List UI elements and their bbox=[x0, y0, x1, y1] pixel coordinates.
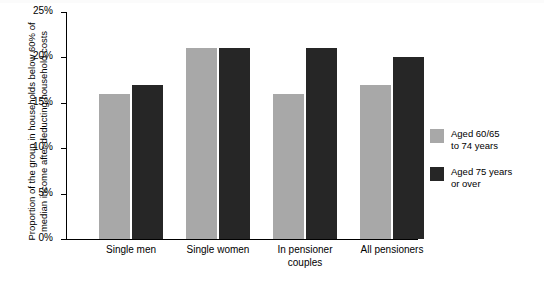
y-tick-label-15: 15% bbox=[13, 96, 53, 107]
y-tick-25: 25% bbox=[61, 12, 66, 13]
legend: Aged 60/65 to 74 years Aged 75 years or … bbox=[430, 128, 542, 204]
bar-single-women-60-74 bbox=[186, 48, 217, 239]
bar-single-men-60-74 bbox=[99, 94, 130, 239]
legend-item-75-plus: Aged 75 years or over bbox=[430, 166, 542, 190]
y-axis-line bbox=[66, 12, 67, 240]
x-label-in-pensioner-couples-line2: couples bbox=[245, 257, 365, 268]
legend-swatch-75-plus bbox=[430, 167, 444, 181]
legend-item-60-74: Aged 60/65 to 74 years bbox=[430, 128, 542, 152]
legend-label-75-plus-line1: Aged 75 years bbox=[451, 166, 542, 178]
bars-all-pensioners bbox=[360, 12, 434, 239]
bars-single-women bbox=[186, 12, 260, 239]
y-tick-0: 0% bbox=[61, 239, 66, 240]
y-tick-label-20: 20% bbox=[13, 50, 53, 61]
bar-chart: Proportion of the group in households be… bbox=[0, 0, 544, 285]
y-tick-label-10: 10% bbox=[13, 141, 53, 152]
x-axis-line bbox=[66, 239, 418, 240]
bar-group-all-pensioners: All pensioners bbox=[360, 12, 434, 239]
bar-in-pensioner-couples-75-plus bbox=[306, 48, 337, 239]
legend-label-60-74-line1: Aged 60/65 bbox=[451, 128, 542, 140]
legend-swatch-60-74 bbox=[430, 129, 444, 143]
y-tick-15: 15% bbox=[61, 103, 66, 104]
bar-single-men-75-plus bbox=[132, 85, 163, 239]
top-edge-artifact bbox=[0, 0, 544, 3]
bar-group-in-pensioner-couples: In pensioner couples bbox=[273, 12, 347, 239]
bar-single-women-75-plus bbox=[219, 48, 250, 239]
bar-all-pensioners-60-74 bbox=[360, 85, 391, 239]
x-label-all-pensioners: All pensioners bbox=[332, 244, 452, 255]
legend-label-60-74-line2: to 74 years bbox=[451, 140, 542, 152]
y-tick-label-5: 5% bbox=[13, 187, 53, 198]
y-tick-label-25: 25% bbox=[13, 5, 53, 16]
bar-group-single-men: Single men bbox=[99, 12, 173, 239]
bar-all-pensioners-75-plus bbox=[393, 57, 424, 239]
y-tick-20: 20% bbox=[61, 57, 66, 58]
y-tick-10: 10% bbox=[61, 148, 66, 149]
legend-label-75-plus-line2: or over bbox=[451, 178, 542, 190]
bars-in-pensioner-couples bbox=[273, 12, 347, 239]
y-axis-title-line-2: median income after deducting household … bbox=[37, 7, 49, 257]
y-tick-label-0: 0% bbox=[13, 232, 53, 243]
bar-in-pensioner-couples-60-74 bbox=[273, 94, 304, 239]
y-tick-5: 5% bbox=[61, 194, 66, 195]
y-axis-title-line-1: Proportion of the group in households be… bbox=[26, 7, 38, 257]
bar-group-single-women: Single women bbox=[186, 12, 260, 239]
bars-single-men bbox=[99, 12, 173, 239]
y-axis-title: Proportion of the group in households be… bbox=[26, 7, 49, 257]
plot-area: 0% 5% 10% 15% 20% 25% Single men bbox=[66, 12, 418, 240]
